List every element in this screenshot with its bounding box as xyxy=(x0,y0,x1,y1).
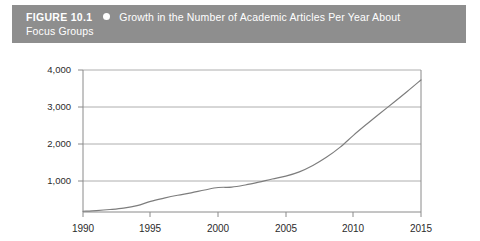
caption-first-line: FIGURE 10.1Growth in the Number of Acade… xyxy=(26,11,466,24)
figure-title-line-1: Growth in the Number of Academic Article… xyxy=(119,11,400,23)
circle-bullet-icon xyxy=(103,13,110,20)
x-tick-marks xyxy=(83,212,421,217)
y-tick-label-4000: 4,000 xyxy=(47,64,71,75)
y-tick-marks xyxy=(78,70,83,181)
x-tick-labels: 1990 1995 2000 2005 2010 2015 xyxy=(72,223,433,234)
x-tick-label-2010: 2010 xyxy=(342,223,365,234)
line-chart-svg: 4,000 3,000 2,000 1,000 1990 1995 2000 2… xyxy=(0,44,480,241)
chart-plot-area: 4,000 3,000 2,000 1,000 1990 1995 2000 2… xyxy=(0,44,480,241)
figure-container: FIGURE 10.1Growth in the Number of Acade… xyxy=(0,0,480,241)
gridlines xyxy=(83,70,421,181)
x-tick-label-2000: 2000 xyxy=(207,223,230,234)
y-tick-label-3000: 3,000 xyxy=(47,101,71,112)
figure-title-line-2: Focus Groups xyxy=(26,25,466,38)
y-tick-label-1000: 1,000 xyxy=(47,175,71,186)
figure-number-label: FIGURE 10.1 xyxy=(26,11,92,23)
x-tick-label-2015: 2015 xyxy=(410,223,433,234)
x-tick-label-2005: 2005 xyxy=(275,223,298,234)
x-tick-label-1995: 1995 xyxy=(139,223,162,234)
x-tick-label-1990: 1990 xyxy=(72,223,95,234)
series-line-focus-group-articles xyxy=(83,80,421,211)
y-tick-labels: 4,000 3,000 2,000 1,000 xyxy=(47,64,71,186)
y-tick-label-2000: 2,000 xyxy=(47,138,71,149)
figure-caption-bar: FIGURE 10.1Growth in the Number of Acade… xyxy=(12,5,466,43)
